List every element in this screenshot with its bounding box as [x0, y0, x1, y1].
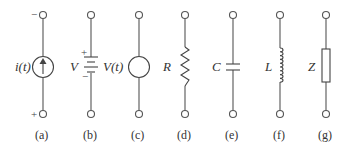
- caption-g: (g): [318, 128, 332, 142]
- bottom-polarity-sign: +: [31, 108, 37, 120]
- top-terminal-icon: [182, 12, 189, 19]
- top-polarity-sign: −: [31, 8, 37, 20]
- capacitor-label: C: [212, 59, 221, 74]
- battery-element: + − V (b): [70, 12, 98, 143]
- bottom-terminal-icon: [323, 111, 330, 118]
- caption-c: (c): [131, 128, 144, 142]
- circuit-elements-diagram: − + i(t) (a) + − V (b) V(t) (c): [0, 0, 347, 152]
- top-terminal-icon: [136, 12, 143, 19]
- voltage-source-element: V(t) (c): [103, 12, 150, 143]
- caption-b: (b): [83, 128, 97, 142]
- top-terminal-icon: [277, 12, 284, 19]
- voltage-source-label: V(t): [103, 59, 123, 74]
- impedance-box-icon: [322, 49, 330, 82]
- resistor-label: R: [162, 59, 171, 74]
- battery-label: V: [70, 59, 80, 74]
- caption-a: (a): [35, 128, 48, 142]
- current-source-element: − + i(t) (a): [15, 8, 54, 142]
- impedance-element: Z (g): [308, 12, 332, 143]
- inductor-label: L: [264, 59, 272, 74]
- top-terminal-icon: [230, 12, 237, 19]
- voltage-source-icon: [129, 57, 150, 78]
- caption-d: (d): [177, 128, 191, 142]
- bottom-terminal-icon: [136, 111, 143, 118]
- capacitor-element: C (e): [212, 12, 240, 143]
- top-terminal-icon: [88, 12, 95, 19]
- impedance-label: Z: [308, 59, 316, 74]
- bottom-terminal-icon: [182, 111, 189, 118]
- minus-sign: −: [82, 70, 88, 82]
- resistor-element: R (d): [162, 12, 191, 143]
- caption-f: (f): [273, 128, 285, 142]
- resistor-zigzag-icon: [181, 47, 189, 86]
- inductor-coil-icon: [280, 48, 283, 82]
- capacitor-plates-icon: [226, 64, 240, 70]
- bottom-terminal-icon: [230, 111, 237, 118]
- bottom-terminal-icon: [40, 111, 47, 118]
- caption-e: (e): [225, 128, 238, 142]
- top-terminal-icon: [323, 12, 330, 19]
- plus-sign: +: [81, 46, 87, 58]
- current-source-label: i(t): [15, 59, 31, 74]
- top-terminal-icon: [40, 12, 47, 19]
- bottom-terminal-icon: [88, 111, 95, 118]
- inductor-element: L (f): [264, 12, 285, 143]
- bottom-terminal-icon: [277, 111, 284, 118]
